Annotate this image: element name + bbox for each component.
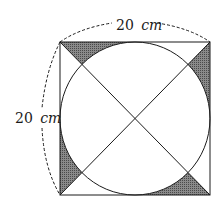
top-dimension-label: 20 cm <box>116 17 162 33</box>
left-dimension-arc <box>42 42 60 108</box>
left-dimension-label: 20 cm <box>15 110 61 126</box>
top-dimension-arc <box>60 23 112 42</box>
left-dimension-arc-bottom <box>42 128 60 195</box>
geometry-figure: 20 cm 20 cm <box>0 0 222 210</box>
top-dimension-arc-right <box>157 23 210 42</box>
